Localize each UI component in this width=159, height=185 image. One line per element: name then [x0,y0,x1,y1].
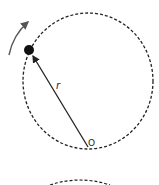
particle-dot [24,45,34,55]
radius-vector-arrow [33,56,88,147]
origin-label: O [88,138,95,148]
circular-motion-diagram: r O [0,0,159,185]
circular-path [23,13,153,149]
radius-label: r [56,80,61,91]
second-circular-path-partial [50,180,110,185]
